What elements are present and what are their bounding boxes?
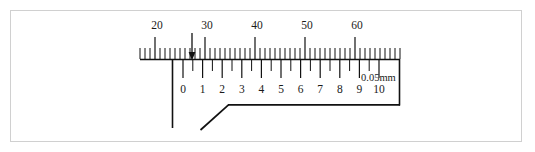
main-scale-label: 50 — [301, 20, 313, 32]
main-scale-label: 60 — [351, 20, 363, 32]
vernier-scale-label: 3 — [239, 84, 245, 96]
main-scale-label: 20 — [151, 20, 163, 32]
main-scale-label: 30 — [201, 20, 213, 32]
screenshot-root: 2030405060 012345678910 0.05mm — [0, 0, 535, 152]
vernier-scale-label: 10 — [373, 84, 385, 96]
vernier-scale-label: 2 — [219, 84, 225, 96]
vernier-scale-label: 4 — [259, 84, 265, 96]
main-scale-ticks — [140, 37, 400, 59]
vernier-scale-label: 7 — [317, 84, 323, 96]
vernier-scale-label: 9 — [357, 84, 363, 96]
unit-label: 0.05mm — [361, 73, 396, 84]
vernier-scale-label: 5 — [278, 84, 284, 96]
vernier-scale-label: 0 — [180, 84, 186, 96]
vernier-scale-ticks — [183, 60, 379, 78]
vernier-scale-label: 1 — [200, 84, 206, 96]
vernier-scale-label: 8 — [337, 84, 343, 96]
vernier-scale-label: 6 — [298, 84, 304, 96]
main-scale-label: 40 — [251, 20, 263, 32]
caliper-jaw-diagonal — [201, 105, 229, 130]
vernier-caliper-diagram — [0, 0, 535, 152]
